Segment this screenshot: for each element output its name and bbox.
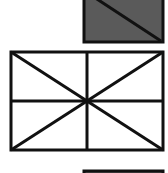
partial-shape-body	[84, 171, 163, 173]
divided-rectangle	[11, 52, 163, 150]
diagram-canvas	[0, 0, 168, 173]
partial-bottom-shape	[84, 171, 163, 173]
shaded-square	[74, 0, 163, 42]
